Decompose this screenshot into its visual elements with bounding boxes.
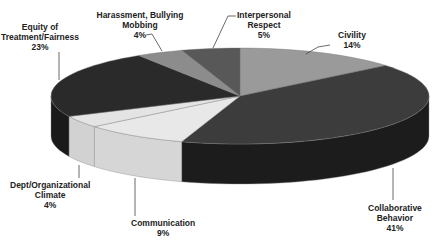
data-label-harassment-bullying-mobbing: Harassment, BullyingMobbing4% [97,10,184,40]
leader-line-interpersonal-respect [213,16,236,48]
label-text: Dept/Organizational [10,180,90,190]
data-label-equity-of-treatment-fairness: Equity ofTreatment/Fairness23% [1,22,79,52]
data-label-dept-organizational-climate: Dept/OrganizationalClimate4% [10,180,90,210]
label-text: Collaborative [368,203,422,213]
label-percent: 23% [1,42,79,52]
label-percent: 9% [131,228,195,238]
data-label-interpersonal-respect: InterpersonalRespect5% [237,10,291,40]
label-percent: 4% [10,200,90,210]
label-percent: 14% [338,40,366,50]
label-text: Equity of [1,22,79,32]
data-label-collaborative-behavior: CollaborativeBehavior41% [368,203,422,233]
data-label-civility: Civility14% [338,30,366,50]
label-text: Mobbing [97,20,184,30]
pie-tops [51,48,429,144]
label-text: Respect [237,20,291,30]
label-percent: 5% [237,30,291,40]
label-text: Harassment, Bullying [97,10,184,20]
label-text: Interpersonal [237,10,291,20]
label-text: Treatment/Fairness [1,32,79,42]
data-label-communication: Communication9% [131,218,195,238]
label-text: Communication [131,218,195,228]
label-text: Behavior [368,213,422,223]
label-text: Civility [338,30,366,40]
label-percent: 41% [368,223,422,233]
label-text: Climate [10,190,90,200]
label-percent: 4% [97,30,184,40]
